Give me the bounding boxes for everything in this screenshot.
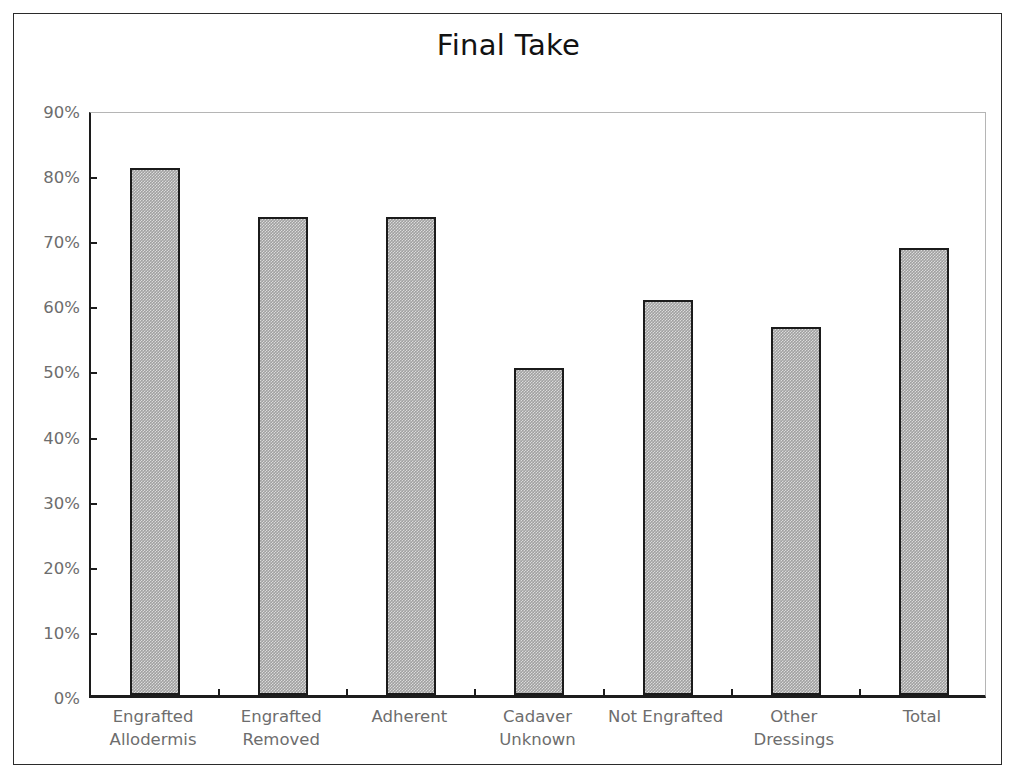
- bar[interactable]: [386, 217, 436, 695]
- x-axis-label-line: Total: [858, 705, 986, 728]
- y-axis-tick-label: 10%: [43, 626, 91, 643]
- y-axis-tick-label: 30%: [43, 495, 91, 512]
- bar[interactable]: [514, 368, 564, 696]
- bar-slot: [91, 113, 219, 695]
- y-axis-tick-label: 50%: [43, 365, 91, 382]
- bar-slot: [219, 113, 347, 695]
- x-axis-label: CadaverUnknown: [473, 705, 601, 751]
- x-axis-label: EngraftedAllodermis: [89, 705, 217, 751]
- x-axis-label: Adherent: [345, 705, 473, 728]
- x-axis-tick-mark: [474, 689, 476, 698]
- y-axis-tick-label: 60%: [43, 300, 91, 317]
- y-axis-tick-label: 90%: [43, 105, 91, 122]
- bar-slot: [604, 113, 732, 695]
- x-axis-tick-mark: [346, 689, 348, 698]
- x-axis-tick-mark: [859, 689, 861, 698]
- x-axis-tick-mark: [218, 689, 220, 698]
- y-axis-tick-label: 40%: [43, 430, 91, 447]
- x-axis-label: EngraftedRemoved: [217, 705, 345, 751]
- bar-slot: [732, 113, 860, 695]
- bar[interactable]: [130, 168, 180, 695]
- x-axis-label-line: Other: [730, 705, 858, 728]
- chart-frame: Final Take 0%10%20%30%40%50%60%70%80%90%…: [13, 13, 1002, 765]
- x-axis-tick-mark: [603, 689, 605, 698]
- x-axis-label-line: Engrafted: [89, 705, 217, 728]
- bar-slot: [475, 113, 603, 695]
- bar[interactable]: [643, 300, 693, 695]
- x-axis-label-line: Allodermis: [89, 728, 217, 751]
- bar-slot: [860, 113, 988, 695]
- x-axis-label-line: Dressings: [730, 728, 858, 751]
- y-axis-tick-label: 0%: [54, 691, 91, 708]
- x-axis-label-line: Unknown: [473, 728, 601, 751]
- y-axis-tick-label: 70%: [43, 235, 91, 252]
- x-axis-tick-mark: [731, 689, 733, 698]
- chart-title: Final Take: [14, 28, 1003, 62]
- y-axis-tick-label: 20%: [43, 561, 91, 578]
- bar[interactable]: [899, 248, 949, 695]
- x-axis-label-line: Adherent: [345, 705, 473, 728]
- x-axis-label-line: Cadaver: [473, 705, 601, 728]
- bar-slot: [347, 113, 475, 695]
- x-axis-label-line: Engrafted: [217, 705, 345, 728]
- y-axis-tick-label: 80%: [43, 170, 91, 187]
- bar[interactable]: [258, 217, 308, 695]
- x-axis-label: Total: [858, 705, 986, 728]
- x-axis-label: OtherDressings: [730, 705, 858, 751]
- x-axis-label-line: Removed: [217, 728, 345, 751]
- x-axis-label-line: Not Engrafted: [602, 705, 730, 728]
- plot-area: 0%10%20%30%40%50%60%70%80%90%: [89, 112, 986, 698]
- x-axis-label: Not Engrafted: [602, 705, 730, 728]
- x-axis-labels: EngraftedAllodermisEngraftedRemovedAdher…: [89, 705, 986, 763]
- bar[interactable]: [771, 327, 821, 695]
